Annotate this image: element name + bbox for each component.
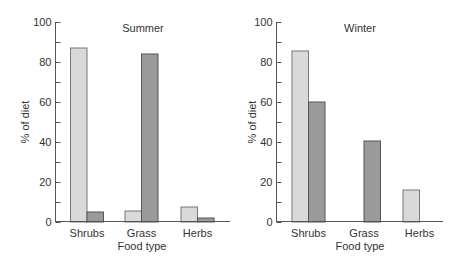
summer-ylabel: % of diet [19,101,31,144]
bar-grass-dark [142,54,159,222]
bar-herbs-light [181,207,198,222]
summer-panel: Summer % of diet 020406080100 ShrubsGras… [19,16,230,252]
y-tick-label: 60 [260,96,272,108]
summer-bars [71,48,215,222]
bar-shrubs-light [292,51,309,222]
winter-ylabel: % of diet [246,101,258,144]
x-tick-label: Grass [349,227,379,239]
summer-xlabel: Food type [118,240,167,252]
summer-x-labels: ShrubsGrassHerbs [70,227,213,239]
summer-y-ticks: 020406080100 [33,16,60,228]
y-tick-label: 40 [39,136,51,148]
winter-y-ticks: 020406080100 [254,16,281,228]
bar-grass-dark [364,141,381,222]
y-tick-label: 0 [45,216,51,228]
x-tick-label: Shrubs [291,227,326,239]
winter-bars [292,51,420,222]
winter-panel: Winter % of diet 020406080100 ShrubsGras… [246,16,443,252]
winter-x-labels: ShrubsGrassHerbs [291,227,435,239]
bar-shrubs-light [71,48,88,222]
bar-shrubs-dark [309,102,326,222]
y-tick-label: 100 [33,16,51,28]
bar-grass-light [125,211,142,222]
summer-title: Summer [122,22,164,34]
y-tick-label: 40 [260,136,272,148]
y-tick-label: 20 [260,176,272,188]
y-tick-label: 0 [266,216,272,228]
x-tick-label: Grass [127,227,157,239]
y-tick-label: 60 [39,96,51,108]
y-tick-label: 80 [39,56,51,68]
y-tick-label: 100 [254,16,272,28]
chart-canvas: Summer % of diet 020406080100 ShrubsGras… [0,0,460,264]
y-tick-label: 20 [39,176,51,188]
winter-xlabel: Food type [336,240,385,252]
y-tick-label: 80 [260,56,272,68]
bar-herbs-light [403,190,420,222]
bar-shrubs-dark [87,212,104,222]
x-tick-label: Herbs [183,227,213,239]
winter-title: Winter [344,22,376,34]
x-tick-label: Herbs [405,227,435,239]
x-tick-label: Shrubs [70,227,105,239]
